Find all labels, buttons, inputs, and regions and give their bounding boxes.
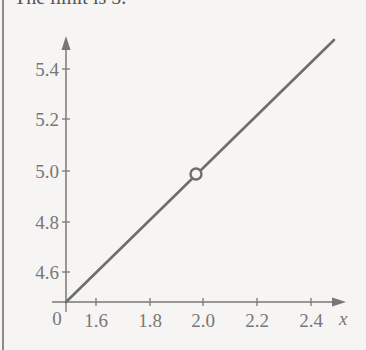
x-tick-label: 2.0 [191,310,215,331]
x-axis-title: x [338,308,348,329]
y-tick-label: 5.0 [35,161,59,182]
y-axis: 5.4 5.2 5.0 4.8 4.6 [35,36,70,302]
origin-label: 0 [52,308,62,329]
y-tick-label: 4.8 [35,212,59,233]
x-tick-label: 2.4 [299,310,323,331]
x-tick-label: 1.6 [84,310,108,331]
limit-chart: 5.4 5.2 5.0 4.8 4.6 0 1.6 1.8 2.0 2.2 2.… [0,0,366,350]
y-axis-arrow-icon [62,36,71,50]
y-tick-label: 5.2 [35,109,59,130]
y-tick-label: 4.6 [35,262,59,283]
x-axis-arrow-icon [332,298,346,307]
open-circle-hole-icon [191,169,202,180]
x-tick-label: 2.2 [245,310,269,331]
x-tick-label: 1.8 [138,310,162,331]
y-tick-label: 5.4 [35,59,59,80]
x-axis: 0 1.6 1.8 2.0 2.2 2.4 x [52,298,348,332]
